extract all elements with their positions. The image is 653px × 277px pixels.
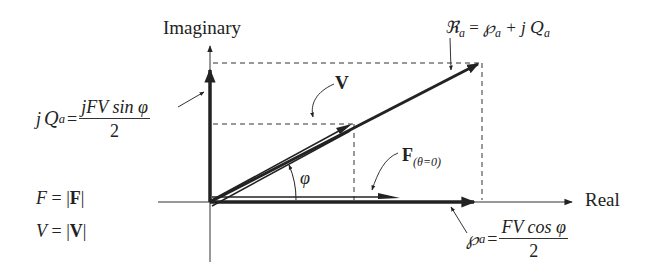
active-power-label: ℘a = FV cos φ 2 bbox=[466, 218, 568, 260]
imaginary-axis-label: Imaginary bbox=[163, 18, 241, 37]
angle-label: φ bbox=[300, 169, 310, 187]
voltage-vector-label: V bbox=[335, 73, 349, 92]
complex-power-label: ℜa = ℘a + j Qa bbox=[445, 19, 550, 40]
real-axis-label: Real bbox=[585, 190, 620, 209]
reactive-fraction: jFV sin φ 2 bbox=[79, 98, 150, 140]
force-vector-label: F(θ=0) bbox=[402, 146, 441, 168]
force-vector bbox=[212, 193, 400, 199]
angle-arc bbox=[289, 165, 296, 200]
v-magnitude-definition: V = |V| bbox=[36, 222, 86, 240]
f-magnitude-definition: F = |F| bbox=[36, 189, 84, 207]
active-fraction: FV cos φ 2 bbox=[499, 218, 568, 260]
reactive-power-label: j Qa = jFV sin φ 2 bbox=[36, 98, 150, 140]
